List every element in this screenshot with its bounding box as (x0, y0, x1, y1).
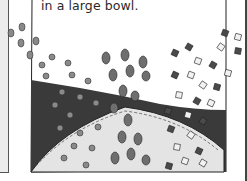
bowl-illustration (0, 0, 247, 181)
